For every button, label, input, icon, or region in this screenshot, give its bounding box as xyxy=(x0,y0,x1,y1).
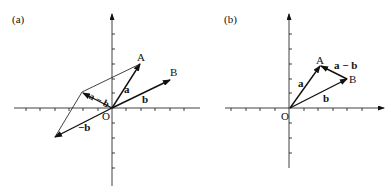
vector-diagram xyxy=(0,0,392,193)
panel-b-point-a-label: A xyxy=(316,55,324,66)
panel-b-origin-label: O xyxy=(281,111,289,122)
panel-a-vector-neg-b-label: −b xyxy=(78,122,90,133)
panel-b-label: (b) xyxy=(224,14,237,25)
panel-b-axes xyxy=(225,14,384,168)
panel-b-vector-a-label: a xyxy=(298,78,304,89)
panel-b-vector-a xyxy=(290,66,320,108)
panel-a-point-a-label: A xyxy=(137,52,145,63)
panel-a-origin-label: O xyxy=(102,111,110,122)
panel-b-vector-b-label: b xyxy=(323,93,329,104)
panel-a-vector-a-label: a xyxy=(124,84,130,95)
panel-a-point-b-label: B xyxy=(170,67,177,78)
panel-b-point-b-label: B xyxy=(349,74,356,85)
panel-b-x-ticks xyxy=(231,108,362,111)
panel-a-label: (a) xyxy=(12,14,24,25)
panel-a-vector-b-label: b xyxy=(142,94,148,105)
panel-b-vector-a-minus-b-label: a − b xyxy=(334,60,357,71)
panel-b-y-ticks xyxy=(289,34,292,153)
panel-a-y-ticks xyxy=(112,34,115,168)
